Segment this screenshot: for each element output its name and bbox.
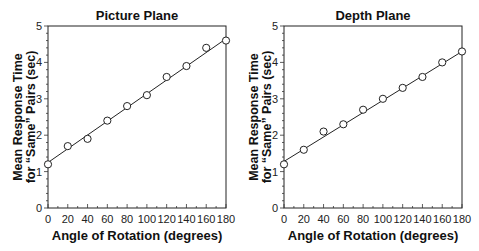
data-point-marker	[300, 146, 307, 153]
x-tick-label: 100	[374, 213, 392, 225]
data-point-marker	[419, 73, 426, 80]
data-point-marker	[320, 128, 327, 135]
x-tick-label: 0	[281, 213, 287, 225]
x-tick-label: 40	[317, 213, 329, 225]
chart-title: Depth Plane	[335, 8, 410, 23]
data-point-marker	[183, 62, 190, 69]
x-tick-label: 60	[101, 213, 113, 225]
y-axis-label-line2: for “Same” Pairs (sec)	[260, 51, 274, 184]
data-point-marker	[124, 102, 131, 109]
y-axis-label-line1: Mean Response Time	[247, 53, 261, 181]
y-tick-label: 5	[36, 20, 42, 32]
data-point-marker	[163, 73, 170, 80]
y-axis-label-line2: for “Same” Pairs (sec)	[24, 51, 38, 184]
data-point-marker	[340, 121, 347, 128]
x-tick-label: 20	[298, 213, 310, 225]
x-tick-label: 80	[121, 213, 133, 225]
x-tick-label: 0	[45, 213, 51, 225]
x-tick-label: 20	[62, 213, 74, 225]
x-tick-label: 140	[413, 213, 431, 225]
regression-line	[48, 39, 226, 163]
x-tick-label: 80	[357, 213, 369, 225]
data-point-marker	[399, 84, 406, 91]
x-tick-label: 180	[217, 213, 235, 225]
data-point-marker	[84, 135, 91, 142]
plot-frame	[48, 26, 226, 208]
y-tick-label: 0	[272, 202, 278, 214]
y-axis-label-line1: Mean Response Time	[11, 53, 25, 181]
x-tick-label: 160	[433, 213, 451, 225]
data-point-marker	[280, 161, 287, 168]
chart-depth-plane: 012345020406080100120140160180Depth Plan…	[247, 8, 471, 243]
data-point-marker	[458, 48, 465, 55]
x-tick-label: 140	[177, 213, 195, 225]
x-axis-label: Angle of Rotation (degrees)	[52, 228, 222, 243]
data-point-marker	[203, 44, 210, 51]
chart-title: Picture Plane	[96, 8, 178, 23]
data-point-marker	[222, 37, 229, 44]
x-tick-label: 120	[157, 213, 175, 225]
data-point-marker	[64, 143, 71, 150]
data-point-marker	[44, 161, 51, 168]
regression-line	[284, 51, 462, 161]
chart-picture-plane: 012345020406080100120140160180Picture Pl…	[11, 8, 235, 243]
x-tick-label: 160	[197, 213, 215, 225]
x-tick-label: 120	[393, 213, 411, 225]
data-point-marker	[104, 117, 111, 124]
x-tick-label: 40	[81, 213, 93, 225]
x-tick-label: 180	[453, 213, 471, 225]
data-point-marker	[379, 95, 386, 102]
y-tick-label: 0	[36, 202, 42, 214]
y-tick-label: 5	[272, 20, 278, 32]
plot-frame	[284, 26, 462, 208]
x-tick-label: 60	[337, 213, 349, 225]
x-axis-label: Angle of Rotation (degrees)	[288, 228, 458, 243]
data-point-marker	[360, 106, 367, 113]
x-tick-label: 100	[138, 213, 156, 225]
data-point-marker	[143, 92, 150, 99]
figure: 012345020406080100120140160180Picture Pl…	[0, 0, 479, 251]
data-point-marker	[439, 59, 446, 66]
